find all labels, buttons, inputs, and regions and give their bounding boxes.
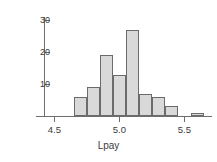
histogram-bar: [126, 30, 139, 116]
y-axis-tick-label: 30: [28, 16, 50, 25]
histogram-bar: [152, 97, 165, 116]
x-axis-tick-mark: [54, 117, 55, 122]
histogram-bar: [191, 113, 204, 116]
y-axis-line: [44, 17, 45, 117]
y-axis-tick-label: 10: [28, 80, 50, 89]
y-axis-tick-label-wrap: 30: [0, 16, 50, 25]
histogram-bar: [113, 75, 126, 117]
y-axis-tick-label: 20: [28, 48, 50, 57]
plot-area: 102030 4.55.05.5 Lpay: [0, 0, 217, 162]
histogram-bar: [74, 97, 87, 116]
x-axis-tick-label: 4.5: [37, 124, 71, 135]
y-axis-tick-label-wrap: 10: [0, 80, 50, 89]
histogram-bar: [87, 87, 100, 116]
x-axis-tick-mark: [119, 117, 120, 122]
histogram-bar: [139, 94, 152, 116]
histogram-bar: [100, 55, 113, 116]
x-axis-tick-label: 5.5: [167, 124, 201, 135]
x-axis-tick-mark: [184, 117, 185, 122]
x-axis-line: [36, 116, 212, 117]
x-axis-tick-label: 5.0: [102, 124, 136, 135]
y-axis-tick-label-wrap: 20: [0, 48, 50, 57]
x-axis-title: Lpay: [0, 140, 217, 151]
histogram-bar: [165, 106, 178, 116]
histogram-chart: 102030 4.55.05.5 Lpay: [0, 0, 217, 162]
